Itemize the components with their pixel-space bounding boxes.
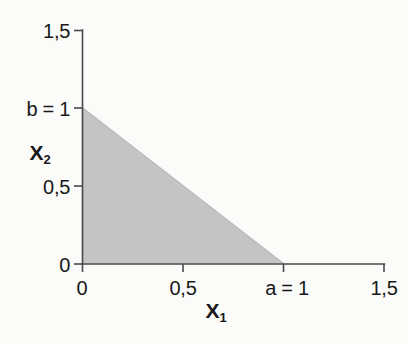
y-tick-label-1-5: 1,5: [0, 21, 70, 41]
y-axis-title: X2: [29, 142, 50, 163]
y-axis-title-base: X: [29, 141, 43, 164]
x-tick-label-0: 0: [77, 278, 88, 298]
x-tick-label-a-1: a = 1: [265, 278, 309, 298]
x-axis-title-base: X: [205, 299, 219, 322]
y-axis-title-subscript: 2: [43, 152, 50, 167]
y-tick-label-b-1: b = 1: [0, 99, 70, 119]
x-axis-title-subscript: 1: [219, 310, 226, 325]
x-tick-label-0-5: 0,5: [170, 278, 197, 298]
x-tick-label-1-5: 1,5: [371, 278, 398, 298]
y-tick-label-0-5: 0,5: [0, 177, 70, 197]
x-axis-title: X1: [205, 300, 226, 321]
plot-area: [0, 0, 408, 344]
chart-figure: 1,5 b = 1 0,5 0 0 0,5 a = 1 1,5 X2 X1: [0, 0, 408, 344]
y-tick-label-0: 0: [0, 255, 70, 275]
